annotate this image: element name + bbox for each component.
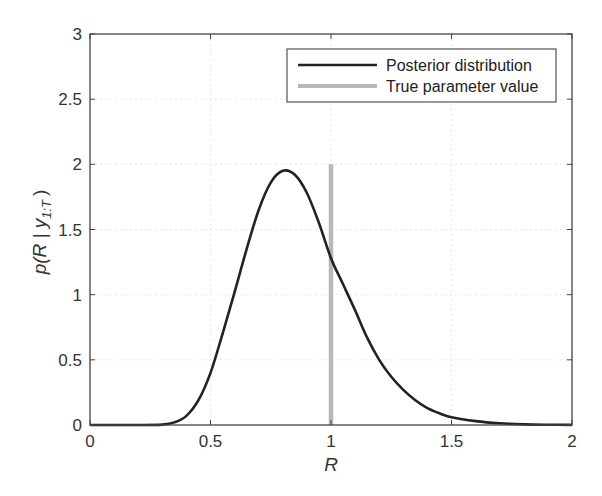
- y-axis-label-subscript: 1:T: [39, 199, 54, 219]
- y-tick-label: 2.5: [58, 90, 82, 109]
- svg-text:p(R | y1:T): p(R | y1:T): [29, 190, 54, 276]
- y-axis-label-main: p(R | y: [29, 217, 50, 275]
- x-tick-labels: 00.511.52: [85, 432, 576, 451]
- chart-canvas: 00.511.52 00.511.522.53 R p(R | y1:T) Po…: [0, 0, 602, 496]
- legend: Posterior distribution True parameter va…: [287, 49, 556, 102]
- y-tick-label: 0.5: [58, 351, 82, 370]
- legend-label-true-value: True parameter value: [386, 78, 538, 95]
- y-tick-label: 1.5: [58, 221, 82, 240]
- y-tick-label: 3: [73, 25, 82, 44]
- x-tick-label: 1: [326, 432, 335, 451]
- x-axis-label: R: [324, 454, 338, 475]
- x-tick-label: 2: [567, 432, 576, 451]
- legend-label-posterior: Posterior distribution: [386, 57, 532, 74]
- y-tick-label: 0: [73, 416, 82, 435]
- x-tick-label: 1.5: [440, 432, 464, 451]
- y-axis-label-close: ): [29, 190, 50, 196]
- x-tick-label: 0.5: [199, 432, 223, 451]
- x-tick-label: 0: [85, 432, 94, 451]
- series-layer: [90, 164, 572, 425]
- y-tick-label: 1: [73, 286, 82, 305]
- y-tick-label: 2: [73, 155, 82, 174]
- y-tick-labels: 00.511.522.53: [58, 25, 82, 435]
- y-axis-label: p(R | y1:T): [29, 190, 54, 276]
